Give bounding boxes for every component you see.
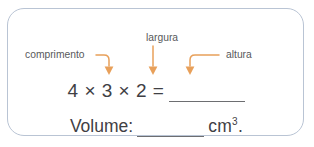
volume-answer-blank[interactable] [137, 113, 204, 137]
equation-answer-blank[interactable] [169, 77, 245, 102]
arrow-line-comprimento [96, 55, 109, 66]
callout-label-altura: altura [226, 49, 252, 61]
equation-row: 4 × 3 × 2 = [8, 79, 305, 104]
callout-label-largura: largura [146, 32, 178, 44]
volume-terminator: . [238, 116, 243, 136]
callout-label-comprimento: comprimento [25, 49, 85, 61]
arrowhead-altura [186, 67, 195, 76]
volume-label: Volume: [70, 116, 133, 136]
exercise-card: comprimento largura altura 4 × 3 × 2 = V… [7, 8, 304, 136]
equation-expression: 4 × 3 × 2 = [68, 80, 165, 101]
volume-row: Volume: cm3. [8, 115, 305, 139]
volume-unit: cm3. [208, 116, 243, 136]
volume-unit-base: cm [208, 116, 232, 136]
arrow-line-altura [190, 55, 219, 66]
arrowhead-largura [149, 67, 158, 76]
arrowhead-comprimento [105, 67, 114, 76]
